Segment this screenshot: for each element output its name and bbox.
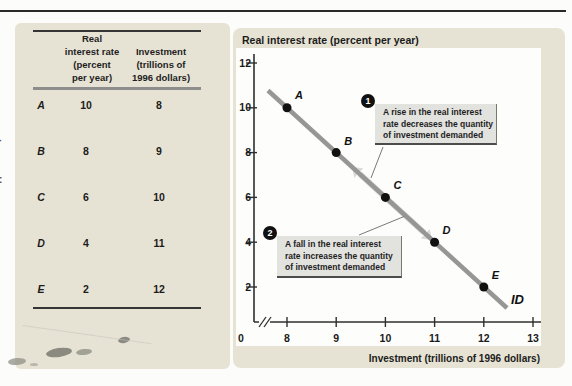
rate-value: 4 [66,237,106,249]
x-tick-10: 10 [380,332,392,344]
point-label-D: D [443,224,451,236]
row-label: C [33,191,49,203]
row-label: B [33,145,49,157]
y-tick-10: 10 [239,101,251,113]
table-rule-header [33,87,201,90]
margin-fragment-colon: : [0,174,2,185]
row-label: D [33,237,49,249]
point-label-B: B [344,135,352,147]
investment-value: 10 [139,191,179,203]
y-tick-12: 12 [239,57,251,69]
investment-value: 12 [139,283,179,295]
rate-value: 2 [66,283,106,295]
investment-value: 8 [139,99,179,111]
point-label-C: C [393,179,402,191]
y-tick-8: 8 [245,146,251,158]
investment-demand-chart: Real interest rate (percent per year) 12… [233,28,565,368]
point-label-A: A [294,89,303,101]
point-label-E: E [492,269,500,281]
y-tick-6: 6 [245,191,251,203]
annotation-number-2: 2 [263,226,277,240]
x-tick-13: 13 [527,332,539,344]
point-D [430,238,439,247]
investment-value: 9 [139,145,179,157]
figure-investment-demand: - : Real interest rate (percent per year… [0,0,572,386]
row-label: E [33,283,49,295]
table-header-investment: Investment (trillions of 1996 dollars) [120,45,202,84]
chart-panel: Real interest rate (percent per year) 12… [233,28,565,368]
row-label: A [33,99,49,111]
rate-value: 10 [66,99,106,111]
y-tick-2: 2 [245,281,251,293]
rate-value: 6 [66,191,106,203]
chart-title: Real interest rate (percent per year) [242,34,419,46]
x-tick-0: 0 [238,332,244,344]
annotation-number-1: 1 [361,94,375,108]
table-rule-bottom [33,307,201,309]
data-table-panel: Real interest rate (percent per year) In… [15,23,230,369]
rate-value: 8 [66,145,106,157]
y-tick-4: 4 [245,236,251,248]
x-tick-11: 11 [429,332,440,344]
investment-value: 11 [139,237,179,249]
figure-top-rule [0,10,566,12]
annotation-box-2: A fall in the real interest rate increas… [277,236,402,278]
x-axis-label: Investment (trillions of 1996 dollars) [369,353,540,364]
ink-smudge [30,363,38,366]
margin-fragment-dash: - [0,134,1,145]
annotation-box-1: A rise in the real interest rate decreas… [375,104,497,145]
x-tick-9: 9 [333,332,339,344]
x-axis-break-icon [259,317,271,327]
point-E [479,283,488,292]
point-B [332,148,341,157]
point-A [283,103,292,112]
curve-label-ID: ID [511,292,525,307]
point-C [381,193,390,202]
x-tick-12: 12 [478,332,490,344]
x-tick-8: 8 [284,332,290,344]
